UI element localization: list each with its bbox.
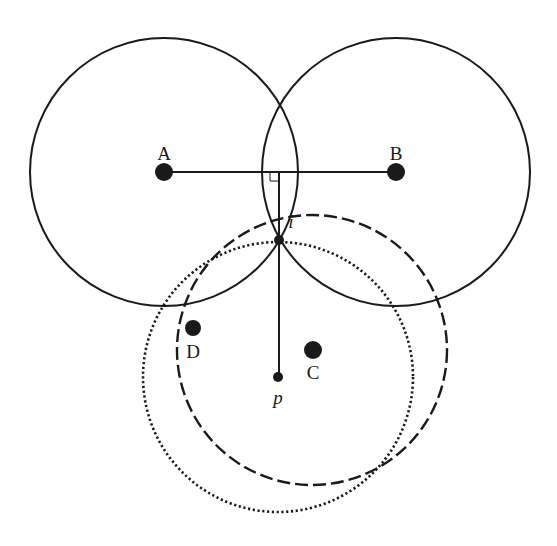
label-C: C: [307, 362, 320, 383]
point-D: [185, 320, 201, 336]
point-i: [274, 235, 284, 245]
point-C: [304, 341, 322, 359]
label-B: B: [390, 143, 403, 164]
point-B: [387, 163, 405, 181]
label-A: A: [157, 143, 171, 164]
right-angle-square: [270, 172, 279, 181]
point-A: [155, 163, 173, 181]
right-angle-marker: [270, 172, 279, 181]
point-p: [273, 372, 283, 382]
label-p: p: [271, 387, 283, 408]
label-D: D: [186, 341, 200, 362]
label-i: i: [288, 211, 293, 232]
geometry-diagram: ABCDip: [0, 0, 557, 546]
